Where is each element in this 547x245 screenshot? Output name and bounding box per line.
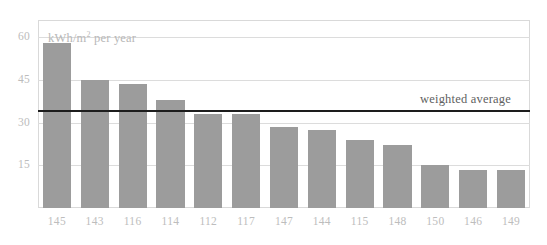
x-tick-label: 150 <box>417 216 455 228</box>
x-tick-label: 114 <box>152 216 190 228</box>
y-tick-label: 15 <box>0 159 30 171</box>
x-tick-label: 112 <box>189 216 227 228</box>
x-tick-label: 144 <box>303 216 341 228</box>
bar[interactable] <box>308 130 336 208</box>
bar[interactable] <box>497 170 525 209</box>
x-tick-label: 115 <box>341 216 379 228</box>
x-tick-label: 116 <box>114 216 152 228</box>
x-tick-label: 149 <box>492 216 530 228</box>
x-tick-label: 146 <box>454 216 492 228</box>
y-tick-label: 60 <box>0 31 30 43</box>
bar[interactable] <box>119 84 147 208</box>
bar[interactable] <box>194 114 222 208</box>
x-tick-label: 117 <box>227 216 265 228</box>
weighted-average-label: weighted average <box>420 92 511 107</box>
bar[interactable] <box>270 127 298 208</box>
y-tick-label: 45 <box>0 74 30 86</box>
bar[interactable] <box>156 100 184 208</box>
bar[interactable] <box>81 80 109 208</box>
bar[interactable] <box>421 165 449 208</box>
bar[interactable] <box>459 170 487 209</box>
bars-layer <box>38 20 530 208</box>
x-tick-label: 145 <box>38 216 76 228</box>
x-tick-label: 143 <box>76 216 114 228</box>
bar[interactable] <box>43 43 71 208</box>
bar[interactable] <box>346 140 374 208</box>
x-tick-label: 148 <box>379 216 417 228</box>
bar-chart: 60453015 kWh/m2 per year weighted averag… <box>0 0 547 245</box>
y-tick-label: 30 <box>0 117 30 129</box>
weighted-average-line <box>38 110 530 112</box>
x-tick-label: 147 <box>265 216 303 228</box>
bar[interactable] <box>232 114 260 208</box>
bar[interactable] <box>383 145 411 208</box>
